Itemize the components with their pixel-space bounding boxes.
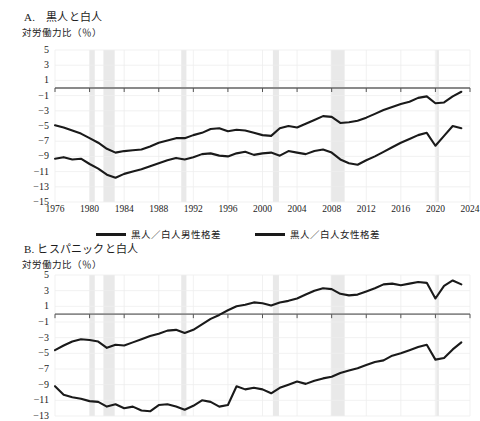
legend-line-icon xyxy=(96,233,126,236)
y-tick-label: −5 xyxy=(38,121,49,131)
y-tick-label: 3 xyxy=(44,286,49,296)
legend-line-icon xyxy=(255,233,285,236)
x-tick-label: 2020 xyxy=(426,204,445,214)
legend-item-male: 黒人／白人男性格差 xyxy=(96,227,221,241)
y-tick-label: −1 xyxy=(38,91,49,101)
panel-a-svg xyxy=(55,50,470,202)
panel-a: A. 黒人と白人 対労働力比（％） 531−1−3−5−7−9−11−13−15… xyxy=(0,8,475,226)
panel-a-title: A. 黒人と白人 xyxy=(24,8,102,24)
x-tick-label: 2008 xyxy=(322,204,341,214)
x-tick-label: 2000 xyxy=(253,204,272,214)
x-tick-label: 1976 xyxy=(46,204,65,214)
y-tick-label: −9 xyxy=(38,151,49,161)
y-tick-label: −13 xyxy=(33,182,49,192)
y-tick-label: −9 xyxy=(38,380,49,390)
panel-a-axis-unit: 対労働力比（％） xyxy=(22,25,102,39)
panel-b: B. ヒスパニックと白人 対労働力比（％） 531−1−3−5−7−9−11−1… xyxy=(0,240,475,416)
y-tick-label: −3 xyxy=(38,333,49,343)
y-tick-label: 1 xyxy=(44,301,49,311)
x-tick-label: 2024 xyxy=(461,204,480,214)
x-tick-label: 1992 xyxy=(184,204,203,214)
legend-item-female: 黒人／白人女性格差 xyxy=(255,227,380,241)
y-tick-label: −7 xyxy=(38,364,49,374)
x-tick-label: 1996 xyxy=(218,204,237,214)
y-tick-label: −13 xyxy=(33,411,49,421)
y-tick-label: 1 xyxy=(44,75,49,85)
x-tick-label: 1988 xyxy=(149,204,168,214)
recession-band xyxy=(90,275,95,416)
recession-band xyxy=(273,275,279,416)
legend-label-male: 黒人／白人男性格差 xyxy=(131,227,221,241)
legend-label-female: 黒人／白人女性格差 xyxy=(290,227,380,241)
y-tick-label: 5 xyxy=(44,270,49,280)
y-tick-label: −11 xyxy=(34,395,49,405)
y-tick-label: 3 xyxy=(44,60,49,70)
y-tick-label: −3 xyxy=(38,106,49,116)
x-tick-label: 2004 xyxy=(288,204,307,214)
panel-b-plot-area xyxy=(55,275,470,416)
x-tick-label: 2012 xyxy=(357,204,376,214)
panel-a-x-axis-labels: 1976198019841988199219962000200420082012… xyxy=(0,204,475,220)
panel-b-title: B. ヒスパニックと白人 xyxy=(24,240,138,256)
x-tick-label: 1980 xyxy=(80,204,99,214)
panel-a-plot-area xyxy=(55,50,470,202)
y-tick-label: −5 xyxy=(38,348,49,358)
x-tick-label: 2016 xyxy=(391,204,410,214)
x-tick-label: 1984 xyxy=(115,204,134,214)
panel-b-svg xyxy=(55,275,470,416)
recession-band xyxy=(181,275,186,416)
y-tick-label: −7 xyxy=(38,136,49,146)
y-tick-label: 5 xyxy=(44,45,49,55)
recession-band xyxy=(331,275,345,416)
panel-b-axis-unit: 対労働力比（％） xyxy=(22,257,102,271)
y-tick-label: −11 xyxy=(34,167,49,177)
y-tick-label: −1 xyxy=(38,317,49,327)
data-series-line-1 xyxy=(55,342,461,411)
